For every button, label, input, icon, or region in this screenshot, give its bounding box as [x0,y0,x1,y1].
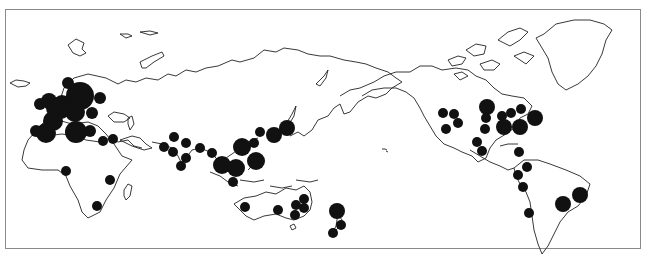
site-marker-south-america [518,182,528,192]
site-marker-africa [105,175,115,185]
site-marker-south-america [572,187,588,203]
site-marker-africa [61,166,71,176]
site-marker-north-america [512,119,528,135]
coast-iceland [10,80,30,87]
site-marker-asia [249,138,259,148]
site-markers [30,77,588,238]
coast-caribbean [500,144,518,146]
site-marker-asia [176,161,186,171]
site-marker-north-america [516,104,526,114]
site-marker-asia [255,127,265,137]
site-marker-oceania [299,203,309,213]
site-marker-asia [247,152,265,170]
coast-tasmania [290,224,296,230]
site-marker-oceania [329,203,345,219]
coast-caspian [128,116,134,130]
site-marker-south-america [522,162,532,172]
site-marker-asia [279,120,295,136]
site-marker-oceania [290,210,300,220]
site-marker-north-america [527,110,543,126]
site-marker-asia [181,138,191,148]
site-marker-south-america [555,196,571,212]
site-marker-europe [86,107,98,119]
site-marker-north-america [449,109,459,119]
site-marker-north-america [480,124,490,134]
site-marker-asia [233,138,251,156]
site-marker-north-america [481,113,491,123]
site-marker-north-america [496,119,512,135]
coast-novaya-zemlya [140,52,164,68]
site-marker-north-america [472,137,482,147]
site-marker-asia [195,143,205,153]
site-marker-europe [84,125,96,137]
site-marker-europe [65,102,85,122]
coast-madagascar [124,184,132,200]
coast-svalbard [68,39,86,56]
site-marker-oceania [240,202,250,212]
coast-south-america [514,160,590,254]
site-marker-asia [169,132,179,142]
site-marker-north-america [453,118,463,128]
site-marker-europe [65,121,87,143]
site-marker-europe [36,123,56,143]
site-marker-asia [227,159,245,177]
site-marker-south-america [524,208,534,218]
site-marker-oceania [336,220,346,230]
site-marker-asia [228,177,238,187]
site-marker-north-america [438,108,448,118]
site-marker-north-america [479,99,495,115]
site-marker-north-america [506,108,516,118]
site-marker-north-america [477,146,487,156]
world-map [0,0,648,254]
site-marker-north-america [514,147,524,157]
site-marker-asia [159,142,169,152]
coast-hawaii [382,149,388,152]
coast-kamchatka [316,70,328,86]
site-marker-europe [108,134,118,144]
site-marker-asia [168,147,178,157]
site-marker-asia [207,148,217,158]
coast-franz-josef [120,31,158,38]
site-marker-europe [94,92,106,104]
site-marker-south-america [513,170,523,180]
coast-arabia [120,136,152,150]
site-marker-north-america [441,124,451,134]
coast-greenland [536,20,612,90]
coast-black-sea [108,112,130,122]
site-marker-africa [92,201,102,211]
coast-eurasia-north [60,48,402,136]
coast-arctic-archipelago [448,28,534,80]
site-marker-europe [98,136,108,146]
site-marker-oceania [299,194,309,204]
site-marker-oceania [273,205,283,215]
site-marker-oceania [328,228,338,238]
